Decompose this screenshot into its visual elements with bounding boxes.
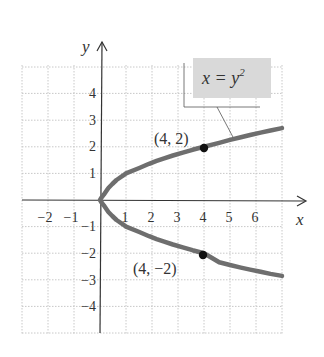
x-tick-labels: −2 −1 1 2 3 4 5 6 [38,210,259,225]
point-4-2 [200,144,208,152]
x-tick: −1 [64,210,79,225]
equation-text: x = y2 [201,66,245,88]
x-tick: 5 [226,210,233,225]
equation-label: x = y2 [184,58,271,139]
parabola-curve [100,128,282,276]
y-axis-label: y [80,37,90,56]
x-tick: −2 [38,210,53,225]
y-tick: 3 [89,113,96,128]
x-tick: 3 [174,210,181,225]
x-axis [22,200,305,201]
y-axis [100,42,102,333]
y-tick: −4 [81,299,96,314]
point-label-lower: (4, −2) [133,260,177,278]
point-label-upper: (4, 2) [154,130,189,148]
point-4-neg2 [199,251,207,259]
y-tick: 1 [89,166,96,181]
y-tick: 4 [89,86,96,101]
y-tick: 2 [89,139,96,154]
x-tick: 4 [200,210,207,225]
x-axis-label: x [295,210,304,229]
x-tick: 2 [148,210,155,225]
y-tick: −2 [81,246,96,261]
y-tick: −3 [81,273,96,288]
equation-leader-line [217,107,234,139]
x-tick: 6 [252,210,259,225]
parabola-chart: x y −2 −1 1 2 3 4 5 6 4 3 2 1 −1 −2 −3 −… [0,0,324,357]
y-tick: −1 [81,219,96,234]
